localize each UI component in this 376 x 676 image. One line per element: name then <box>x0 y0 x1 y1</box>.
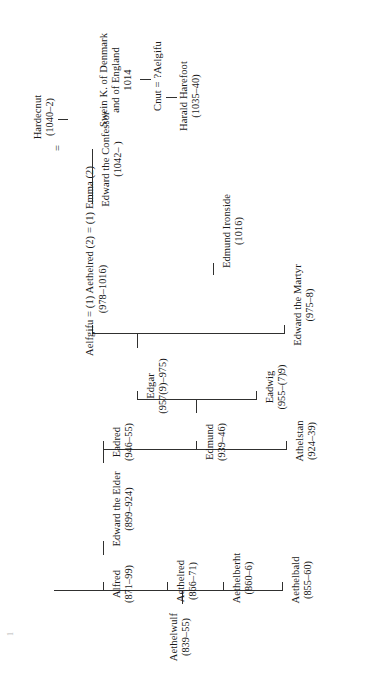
node-edward-the-elder-name: Edward the Elder <box>111 463 123 555</box>
node-edmund-ironside: Edmund Ironside (1016) <box>221 182 244 280</box>
node-edward-the-elder: Edward the Elder (899–924) <box>111 463 134 555</box>
marriage-row-aethelred-ii: Aelfgifu = (1) Aethelred (2) = (1) Emma … <box>84 140 96 356</box>
connector-tick-aethelred1 <box>167 582 168 591</box>
page-mark: 1 <box>6 632 15 636</box>
node-aethelred-i-name: Aethelred <box>175 549 187 613</box>
node-alfred-name: Alfred <box>111 555 123 613</box>
node-cnut: Cnut = ?Aelgifu <box>152 22 164 130</box>
node-swein: Swein K. of Denmark and of England 1014 <box>98 14 134 146</box>
node-alfred: Alfred (871–99) <box>111 555 134 613</box>
node-eadred: Eadred (946–55) <box>111 413 134 471</box>
node-athelstan: Athelstan (924–39) <box>294 411 317 471</box>
connector-edward-elder-stem <box>103 450 104 463</box>
node-edmund: Edmund (939–46) <box>204 413 227 471</box>
node-alfred-dates: (871–99) <box>123 555 134 613</box>
connector-tick-alfred <box>103 582 104 591</box>
node-cnut-name: Cnut <box>152 90 163 111</box>
marriage-aethelred-name: Aethelred <box>84 251 95 293</box>
connector-cnut-to-harald <box>166 97 177 98</box>
node-edgar-name: Edgar <box>145 348 157 424</box>
node-athelstan-name: Athelstan <box>294 411 306 471</box>
node-edgar-dates: (957(9)–975) <box>157 348 168 424</box>
connector-tick-athelstan <box>286 441 287 450</box>
connector-to-hardecnut <box>58 119 68 120</box>
node-aethelbald-name: Aethelbald <box>290 547 302 613</box>
rotated-page-wrapper: Aethelwulf (839–55) Aethelbald (855–60) … <box>0 0 376 676</box>
connector-edmund-stem <box>196 400 197 413</box>
connector-emma-to-confessor <box>92 149 93 204</box>
node-eadred-name: Eadred <box>111 413 123 471</box>
connector-tick-edward-martyr <box>284 325 285 334</box>
marriage-aelfgifu-label: Aelfgifu <box>84 320 95 356</box>
node-aethelberht-name: Aethelberht <box>231 543 243 613</box>
node-aethelred-i: Aethelred (866–71) <box>175 549 198 613</box>
cnut-marriage-equals: = <box>152 81 163 87</box>
node-eadwig-name: Eadwig <box>264 350 276 424</box>
connector-edgar-stem <box>137 334 138 348</box>
connector-to-edmund-ironside <box>213 263 214 275</box>
node-aethelbald-dates: (855–60) <box>302 547 313 613</box>
marriage-equals-1: = <box>84 311 95 317</box>
node-cnut-consort: ?Aelgifu <box>152 41 163 79</box>
node-edmund-ironside-name: Edmund Ironside <box>221 182 233 280</box>
node-eadwig-dates: (955–(7)9) <box>276 350 287 424</box>
node-edward-the-elder-dates: (899–924) <box>123 463 134 555</box>
node-swein-line-2: and of England <box>110 14 122 146</box>
node-aethelwulf: Aethelwulf (839–55) <box>168 604 191 670</box>
node-aethelwulf-name: Aethelwulf <box>168 604 180 670</box>
node-athelstan-dates: (924–39) <box>306 411 317 471</box>
node-edmund-name: Edmund <box>204 413 216 471</box>
node-edgar: Edgar (957(9)–975) <box>145 348 168 424</box>
marriage-ordinal-3: (1) <box>84 212 95 225</box>
connector-tick-eadred <box>103 441 104 450</box>
marriage-equals-2: = <box>84 227 95 233</box>
node-edward-the-martyr: Edward the Martyr (975–8) <box>292 252 315 358</box>
connector-tick-edgar <box>137 391 138 400</box>
node-hardecnut: Hardecnut (1040–2) <box>32 76 55 158</box>
node-harald-harefoot: Harald Harefoot (1035–40) <box>178 40 201 152</box>
node-hardecnut-dates: (1040–2) <box>44 76 55 158</box>
node-eadwig: Eadwig (955–(7)9) <box>264 350 287 424</box>
connector-alfred-to-edward-elder <box>103 541 104 555</box>
node-aethelred-ii-dates: (978–1016) <box>97 254 108 324</box>
marriage-emma-name: Emma <box>84 181 95 209</box>
node-edward-the-martyr-name: Edward the Martyr <box>292 252 304 358</box>
node-aethelred-i-dates: (866–71) <box>187 549 198 613</box>
node-swein-line-3: 1014 <box>122 14 134 146</box>
node-edmund-ironside-dates: (1016) <box>233 182 244 280</box>
node-aethelred-ii-dates-text: (978–1016) <box>97 254 108 324</box>
node-aethelberht: Aethelberht (860–6) <box>231 543 254 613</box>
node-harald-harefoot-dates: (1035–40) <box>190 40 201 152</box>
node-aethelbald: Aethelbald (855–60) <box>290 547 313 613</box>
node-hardecnut-name: Hardecnut <box>32 76 44 158</box>
node-swein-line-1: Swein K. of Denmark <box>98 14 110 146</box>
node-aethelwulf-dates: (839–55) <box>180 604 191 670</box>
node-aethelberht-dates: (860–6) <box>243 543 254 613</box>
marriage-ordinal-4: (2) <box>84 166 95 179</box>
marriage-ordinal-2: (2) <box>84 236 95 249</box>
node-edward-the-martyr-dates: (975–8) <box>304 252 315 358</box>
node-harald-harefoot-name: Harald Harefoot <box>178 40 190 152</box>
node-edmund-dates: (939–46) <box>216 413 227 471</box>
connector-tick-eadwig <box>256 391 257 400</box>
connector-swein-to-cnut <box>140 79 151 80</box>
marriage-ordinal-1: (1) <box>84 296 95 309</box>
connector-tick-aethelberht <box>223 582 224 591</box>
connector-tick-aethelbald <box>282 582 283 591</box>
genealogy-chart: Aethelwulf (839–55) Aethelbald (855–60) … <box>0 0 376 676</box>
connector-gen6-bus <box>92 333 284 334</box>
node-eadred-dates: (946–55) <box>123 413 134 471</box>
connector-tick-edmund <box>196 441 197 450</box>
